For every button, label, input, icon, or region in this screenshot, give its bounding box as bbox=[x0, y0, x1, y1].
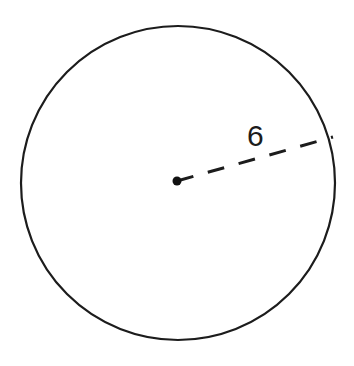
circle-diagram-svg bbox=[0, 0, 354, 366]
radius-length-label: 6 bbox=[247, 121, 264, 151]
center-point-dot bbox=[173, 177, 182, 186]
figure-canvas: 6 bbox=[0, 0, 354, 366]
